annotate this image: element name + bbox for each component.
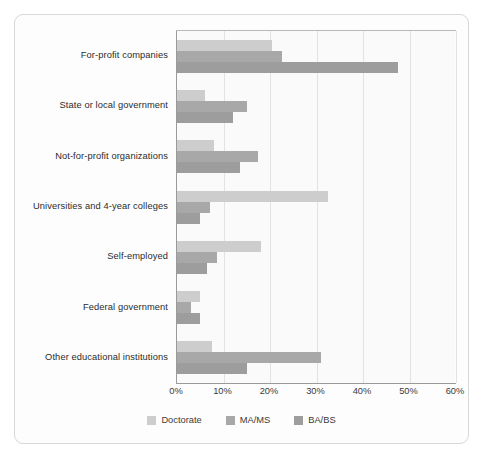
chart-legend: DoctorateMA/MSBA/BS <box>15 415 468 425</box>
bar-group <box>177 140 455 173</box>
bar-doctorate <box>177 140 214 151</box>
bar-group <box>177 90 455 123</box>
bar-ma-ms <box>177 352 321 363</box>
category-axis-labels: For-profit companiesState or local gover… <box>15 31 175 383</box>
x-tick-label: 20% <box>249 386 289 396</box>
bar-doctorate <box>177 341 212 352</box>
chart-card: For-profit companiesState or local gover… <box>14 14 469 444</box>
legend-label: MA/MS <box>240 415 270 425</box>
x-tick-label: 60% <box>435 386 475 396</box>
bar-ma-ms <box>177 51 282 62</box>
x-tick-label: 40% <box>342 386 382 396</box>
category-label: Self-employed <box>13 251 168 261</box>
category-label: State or local government <box>13 100 168 110</box>
bar-group <box>177 191 455 224</box>
x-tick-label: 30% <box>296 386 336 396</box>
bar-ba-bs <box>177 112 233 123</box>
legend-swatch-icon <box>147 416 156 425</box>
bar-group <box>177 241 455 274</box>
x-tick-label: 0% <box>156 386 196 396</box>
plot-bottom-rule <box>176 383 456 384</box>
bar-group <box>177 40 455 73</box>
legend-item-doctorate[interactable]: Doctorate <box>147 415 201 425</box>
bar-doctorate <box>177 291 200 302</box>
x-tick-label: 50% <box>389 386 429 396</box>
bar-group <box>177 291 455 324</box>
bar-chart: For-profit companiesState or local gover… <box>15 15 468 443</box>
bar-ba-bs <box>177 363 247 374</box>
plot-area <box>176 31 455 383</box>
legend-label: Doctorate <box>161 415 201 425</box>
legend-item-ma-ms[interactable]: MA/MS <box>226 415 270 425</box>
bar-doctorate <box>177 191 328 202</box>
category-label: Not-for-profit organizations <box>13 151 168 161</box>
bar-ma-ms <box>177 302 191 313</box>
legend-swatch-icon <box>294 416 303 425</box>
category-label: Universities and 4-year colleges <box>13 201 168 211</box>
gridline <box>456 31 457 383</box>
legend-label: BA/BS <box>308 415 335 425</box>
bar-group <box>177 341 455 374</box>
bar-ma-ms <box>177 202 210 213</box>
x-axis-ticks: 0%10%20%30%40%50%60% <box>176 386 456 402</box>
bar-ba-bs <box>177 62 398 73</box>
bar-ma-ms <box>177 101 247 112</box>
category-label: Federal government <box>13 302 168 312</box>
bar-doctorate <box>177 241 261 252</box>
bar-ba-bs <box>177 162 240 173</box>
bar-doctorate <box>177 90 205 101</box>
legend-swatch-icon <box>226 416 235 425</box>
bar-ba-bs <box>177 263 207 274</box>
bar-doctorate <box>177 40 272 51</box>
category-label: For-profit companies <box>13 50 168 60</box>
category-label: Other educational institutions <box>13 352 168 362</box>
bar-ba-bs <box>177 313 200 324</box>
x-tick-label: 10% <box>203 386 243 396</box>
bar-ma-ms <box>177 151 258 162</box>
legend-item-ba-bs[interactable]: BA/BS <box>294 415 335 425</box>
bar-ba-bs <box>177 213 200 224</box>
bar-ma-ms <box>177 252 217 263</box>
